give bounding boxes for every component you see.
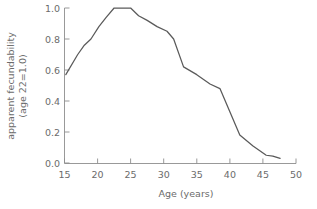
y-axis-ticks: [65, 8, 70, 163]
chart-figure: 1.0 0.8 0.6 0.4 0.2 0.0 15 20 25 30 35 4…: [0, 0, 317, 209]
x-axis-ticks: [65, 159, 297, 164]
x-tick-label-15: 15: [58, 169, 70, 180]
y-tick-label-1.0: 1.0: [45, 3, 60, 14]
x-axis-tick-labels: 15 20 25 30 35 40 45 50: [58, 169, 302, 180]
y-tick-label-0.6: 0.6: [45, 65, 60, 76]
y-tick-label-0.2: 0.2: [45, 127, 60, 138]
x-tick-label-50: 50: [290, 169, 302, 180]
x-tick-label-45: 45: [257, 169, 269, 180]
y-axis-title-line2: (age 22=1.0): [17, 54, 28, 117]
x-tick-label-25: 25: [125, 169, 137, 180]
x-axis-title: Age (years): [159, 188, 214, 199]
x-tick-label-30: 30: [158, 169, 170, 180]
y-tick-label-0.0: 0.0: [45, 158, 60, 169]
x-tick-label-20: 20: [92, 169, 104, 180]
x-tick-label-40: 40: [224, 169, 236, 180]
fecundability-curve: [66, 8, 280, 158]
y-axis-title-line1: apparent fecundability: [5, 32, 16, 140]
y-axis-tick-labels: 1.0 0.8 0.6 0.4 0.2 0.0: [45, 3, 60, 169]
y-tick-label-0.8: 0.8: [45, 34, 60, 45]
y-tick-label-0.4: 0.4: [45, 96, 60, 107]
fecundability-line-chart: 1.0 0.8 0.6 0.4 0.2 0.0 15 20 25 30 35 4…: [0, 0, 317, 209]
x-tick-label-35: 35: [191, 169, 203, 180]
